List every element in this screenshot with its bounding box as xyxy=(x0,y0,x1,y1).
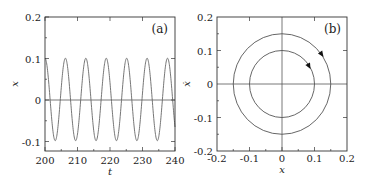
y-tick-label: 0 xyxy=(207,79,213,90)
panel-b: -0.2 -0.1 0 0.1 0.2 0.2 0.1 0 -0.1 -0.2 … xyxy=(181,12,355,175)
y-tick-label: 0.2 xyxy=(25,12,41,23)
figure: 200 210 220 230 240 0.2 0.1 0 -0.1 t x (… xyxy=(0,0,373,181)
y-tick-label: -0.2 xyxy=(194,146,213,157)
x-tick-label: 230 xyxy=(133,155,152,166)
x-axis-label: t xyxy=(108,166,113,177)
y-axis-label: x xyxy=(9,81,20,87)
y-tick-label: 0.1 xyxy=(25,54,41,65)
x-tick-label: 0 xyxy=(279,153,285,164)
x-tick-label: 0.1 xyxy=(307,153,323,164)
panel-label-a: (a) xyxy=(151,22,168,36)
x-tick-label: 220 xyxy=(100,155,119,166)
y-tick-label: 0 xyxy=(35,95,41,106)
time-series-curve xyxy=(45,58,175,140)
x-tick-label: 0.2 xyxy=(339,153,355,164)
y-tick-label: -0.1 xyxy=(22,137,41,148)
panel-label-b: (b) xyxy=(324,22,341,36)
x-tick-label: -0.1 xyxy=(240,153,259,164)
y-tick-label: 0.2 xyxy=(197,12,213,23)
panel-a: 200 210 220 230 240 0.2 0.1 0 -0.1 t x (… xyxy=(9,12,185,177)
x-axis-label: x xyxy=(279,164,285,175)
y-axis-label: ẋ xyxy=(181,81,192,87)
y-tick-label: -0.1 xyxy=(194,113,213,124)
x-tick-label: 210 xyxy=(68,155,87,166)
x-tick-label: 200 xyxy=(35,155,54,166)
x-tick-label: 240 xyxy=(165,155,184,166)
y-tick-label: 0.1 xyxy=(197,46,213,57)
